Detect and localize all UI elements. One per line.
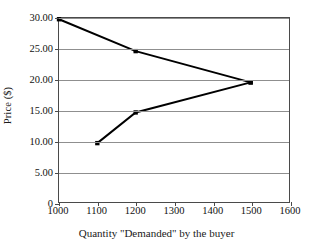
x-tick-label: 1000 — [48, 205, 69, 216]
gridline-horizontal — [59, 80, 289, 81]
y-tick-mark — [55, 49, 59, 50]
y-axis-tick-labels: 05.0010.0015.0020.0025.0030.00 — [14, 17, 56, 203]
y-tick-label: 20.00 — [29, 74, 53, 85]
y-tick-label: 15.00 — [29, 105, 53, 116]
x-tick-label: 1400 — [202, 205, 223, 216]
y-axis-title-label: Price ($) — [3, 86, 14, 123]
series-line — [59, 19, 251, 82]
y-tick-mark — [55, 111, 59, 112]
gridline-horizontal — [59, 49, 289, 50]
y-tick-mark — [55, 80, 59, 81]
x-axis-title: Quantity "Demanded" by the buyer — [0, 227, 313, 239]
y-tick-label: 10.00 — [29, 136, 53, 147]
x-tick-label: 1500 — [241, 205, 262, 216]
series-svg — [59, 18, 289, 202]
gridline-horizontal — [59, 18, 289, 19]
series-line — [97, 82, 250, 143]
gridline-horizontal — [59, 173, 289, 174]
x-tick-label: 1100 — [86, 205, 107, 216]
y-tick-label: 5.00 — [35, 167, 53, 178]
y-tick-mark — [55, 142, 59, 143]
y-tick-label: 25.00 — [29, 43, 53, 54]
plot-area — [58, 17, 290, 203]
y-tick-mark — [55, 18, 59, 19]
gridline-horizontal — [59, 111, 289, 112]
y-tick-mark — [55, 173, 59, 174]
x-tick-label: 1300 — [164, 205, 185, 216]
x-axis-tick-labels: 1000110012001300140015001600 — [58, 205, 290, 221]
y-tick-label: 30.00 — [29, 12, 53, 23]
gridline-horizontal — [59, 142, 289, 143]
x-tick-label: 1600 — [280, 205, 301, 216]
price-quantity-line-chart: Price ($) 05.0010.0015.0020.0025.0030.00… — [0, 0, 313, 249]
x-tick-label: 1200 — [125, 205, 146, 216]
